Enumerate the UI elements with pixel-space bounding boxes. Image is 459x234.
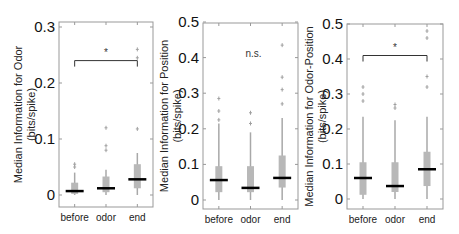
significance-bracket <box>75 61 138 67</box>
x-category-label: before <box>60 212 89 223</box>
iqr-box <box>279 156 286 188</box>
y-axis-label: (bits/spike) <box>25 88 37 141</box>
y-tick-label: 0.1 <box>34 130 55 147</box>
panel-2: 00.10.20.30.40.5Median Information for P… <box>158 13 298 225</box>
y-axis-label: Median Information for Odor-Position <box>303 26 315 206</box>
y-tick-label: 0.2 <box>34 74 55 91</box>
x-category-label: end <box>129 212 146 223</box>
y-tick-label: 0.4 <box>178 49 199 66</box>
y-tick-label: 0.1 <box>322 155 343 172</box>
x-category-label: before <box>349 214 378 225</box>
significance-bracket <box>363 56 427 62</box>
box-end <box>128 47 146 195</box>
y-tick-label: 0 <box>335 190 343 207</box>
y-axis-label: (bits/spike) <box>171 89 183 142</box>
box-before <box>354 85 372 199</box>
y-axis-label: Median Information for Odor <box>12 45 24 183</box>
significance-label: * <box>104 47 108 58</box>
panel-3: 00.10.20.30.40.5Median Information for O… <box>303 15 443 225</box>
iqr-box <box>392 162 399 192</box>
panel-1: 00.10.20.3Median Information for Odor(bi… <box>12 18 153 223</box>
y-tick-label: 0 <box>47 186 55 203</box>
x-category-label: odor <box>385 214 406 225</box>
y-axis-label: (bits/spike) <box>316 90 328 143</box>
x-category-label: odor <box>240 214 261 225</box>
x-category-label: end <box>419 214 436 225</box>
box-before <box>210 97 228 200</box>
x-category-label: before <box>205 214 234 225</box>
box-odor <box>97 126 115 195</box>
x-category-label: end <box>274 214 291 225</box>
boxplot-figure: 00.10.20.3Median Information for Odor(bi… <box>0 0 459 234</box>
box-odor <box>242 111 260 200</box>
y-tick-label: 0 <box>191 191 199 208</box>
x-category-label: odor <box>96 212 117 223</box>
iqr-box <box>134 164 141 188</box>
y-tick-label: 0.5 <box>178 13 199 30</box>
significance-label: * <box>393 42 397 53</box>
box-end <box>273 43 291 200</box>
significance-label: n.s. <box>245 48 261 59</box>
y-axis-label: Median Information for Position <box>158 40 170 192</box>
box-odor <box>386 103 404 200</box>
y-tick-label: 0.4 <box>322 50 343 67</box>
iqr-box <box>103 177 110 193</box>
y-tick-label: 0.3 <box>34 18 55 35</box>
y-tick-label: 0.1 <box>178 155 199 172</box>
y-tick-label: 0.5 <box>322 15 343 32</box>
box-end <box>418 29 436 199</box>
box-before <box>66 162 84 195</box>
